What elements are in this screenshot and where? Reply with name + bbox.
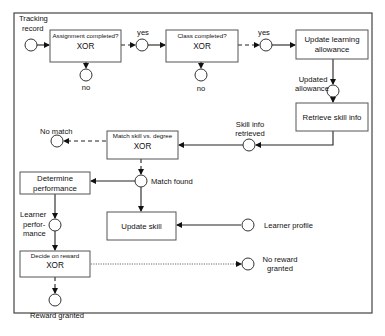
decide-on-reward-title: Decide on reward	[31, 252, 80, 259]
event-circle-icon	[49, 294, 61, 306]
match-found-label: Match found	[151, 177, 193, 186]
event-no-reward-granted: No reward granted	[242, 255, 298, 273]
skill-info-retrieved-line1: Skill info	[236, 120, 264, 129]
learner-performance-line2: perfor-	[23, 220, 46, 229]
update-learning-allowance-line2: allowance	[315, 45, 350, 54]
class-completed-title: Class completed?	[177, 32, 227, 39]
event-circle-icon	[260, 39, 272, 51]
no-match-label: No match	[40, 127, 73, 136]
event-no-match: No match	[40, 127, 73, 147]
learner-performance-line3: mance	[23, 229, 46, 238]
no-reward-granted-line2: granted	[267, 264, 293, 273]
event-class-no: no	[195, 69, 207, 93]
update-skill-label: Update skill	[121, 222, 162, 231]
event-circle-icon	[51, 135, 63, 147]
tracking-record-line1: Tracking	[19, 14, 48, 23]
event-circle-icon	[242, 219, 254, 231]
function-class-completed: Class completed? XOR	[166, 30, 238, 62]
event-circle-icon	[243, 139, 255, 151]
updated-allowance-line1: Updated	[299, 75, 328, 84]
match-skill-xor-operator: XOR	[134, 142, 152, 151]
retrieve-skill-info-label: Retrieve skill info	[303, 113, 363, 122]
updated-allowance-line2: allowance	[295, 84, 329, 93]
process-diagram: Assignment completed? XOR Class complete…	[0, 0, 385, 336]
event-circle-icon	[49, 219, 61, 231]
class-xor-operator: XOR	[193, 42, 211, 51]
decide-xor-operator: XOR	[46, 261, 64, 270]
event-learner-profile: Learner profile	[242, 219, 313, 231]
event-circle-icon	[242, 258, 254, 270]
event-class-yes: yes	[258, 28, 272, 51]
learner-performance-line1: Learner	[20, 210, 47, 219]
event-reward-granted: Reward granted	[30, 294, 84, 320]
class-yes-label: yes	[258, 28, 270, 37]
event-circle-icon	[135, 175, 147, 187]
event-assignment-no: no	[80, 69, 92, 92]
determine-performance-line2: performance	[33, 184, 77, 193]
event-circle-icon	[25, 39, 37, 51]
event-assignment-yes: yes	[136, 28, 149, 51]
class-no-label: no	[197, 84, 205, 93]
function-decide-on-reward: Decide on reward XOR	[20, 251, 90, 277]
assignment-completed-title: Assignment completed?	[52, 32, 119, 39]
update-learning-allowance-line1: Update learning	[304, 35, 359, 44]
no-reward-granted-line1: No reward	[262, 255, 297, 264]
event-match-found: Match found	[135, 175, 193, 187]
learner-profile-label: Learner profile	[264, 221, 313, 230]
function-update-skill: Update skill	[107, 212, 176, 240]
assignment-yes-label: yes	[137, 28, 149, 37]
function-match-skill-vs-degree: Match skill vs. degree XOR	[107, 131, 178, 159]
determine-performance-line1: Determine	[37, 174, 73, 183]
match-skill-title: Match skill vs. degree	[113, 132, 173, 139]
assignment-xor-operator: XOR	[77, 42, 95, 51]
tracking-record-line2: record	[22, 24, 44, 33]
function-determine-performance: Determine performance	[20, 172, 90, 194]
reward-granted-label: Reward granted	[30, 311, 84, 320]
function-assignment-completed: Assignment completed? XOR	[50, 30, 121, 62]
function-update-learning-allowance: Update learning allowance	[296, 30, 368, 59]
function-retrieve-skill-info: Retrieve skill info	[296, 103, 368, 131]
event-circle-icon	[80, 69, 92, 81]
skill-info-retrieved-line2: retrieved	[235, 129, 265, 138]
assignment-no-label: no	[82, 83, 90, 92]
event-circle-icon	[195, 69, 207, 81]
event-circle-icon	[136, 39, 148, 51]
event-updated-allowance: Updated allowance	[295, 75, 339, 97]
event-skill-info-retrieved: Skill info retrieved	[235, 120, 265, 151]
